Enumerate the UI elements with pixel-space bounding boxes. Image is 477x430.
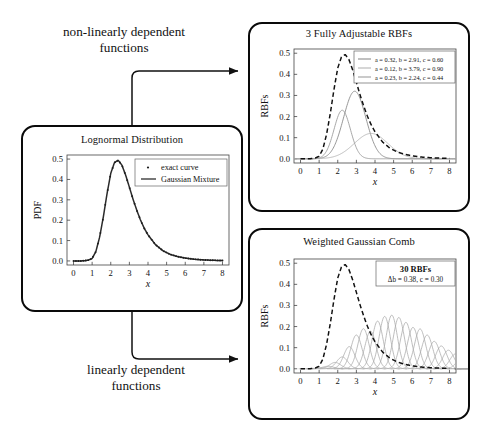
- legend-label-rbf-2: a = 0.12, b = 3.79, c = 0.90: [375, 65, 443, 72]
- series-exact-curve-marker: [109, 176, 111, 178]
- series-exact-curve-marker: [190, 258, 192, 260]
- series-exact-curve-marker: [219, 260, 221, 262]
- x-tick-label: 5: [164, 268, 168, 278]
- x-tick-label: 7: [202, 268, 207, 278]
- series-exact-curve-marker: [112, 167, 114, 169]
- series-exact-curve-marker: [153, 242, 155, 244]
- series-exact-curve-marker: [192, 258, 194, 260]
- series-exact-curve-marker: [151, 239, 153, 241]
- series-exact-curve-marker: [163, 250, 165, 252]
- x-tick-label: 4: [146, 268, 151, 278]
- x-tick-label: 3: [354, 376, 358, 386]
- series-exact-curve-marker: [202, 259, 204, 261]
- series-exact-curve-marker: [117, 160, 119, 162]
- series-exact-curve-marker: [185, 257, 187, 259]
- legend-label-exact-curve: exact curve: [161, 163, 199, 172]
- y-tick-label: 0.0: [279, 154, 290, 164]
- panel-title-left: Lognormal Distribution: [23, 134, 241, 145]
- x-tick-label: 1: [317, 376, 321, 386]
- series-exact-curve-marker: [124, 172, 126, 174]
- flow-label-nonlinear: non-linearly dependent functions: [18, 24, 230, 55]
- x-tick-label: 5: [391, 166, 395, 176]
- series-exact-curve-marker: [175, 255, 177, 257]
- legend-marker-dot-icon: [147, 166, 149, 168]
- series-exact-curve-marker: [102, 219, 104, 221]
- x-tick-label: 3: [127, 268, 131, 278]
- y-tick-label: 0.5: [52, 154, 63, 164]
- series-exact-curve-marker: [156, 245, 158, 247]
- y-axis-label: RBFs: [259, 94, 270, 117]
- flow-label-linear: linearly dependent functions: [30, 362, 242, 393]
- series-exact-curve-marker: [90, 258, 92, 260]
- x-tick-label: 1: [90, 268, 94, 278]
- legend-label-gaussian-mixture: Gaussian Mixture: [161, 175, 220, 184]
- comb-rbf-curve: [419, 346, 456, 369]
- series-exact-curve-marker: [95, 251, 97, 253]
- legend-label-rbf-3: a = 0.23, b = 2.24, c = 0.44: [375, 74, 444, 81]
- y-tick-label: 0.1: [279, 343, 290, 353]
- series-exact-curve-marker: [204, 259, 206, 261]
- series-exact-curve-marker: [158, 247, 160, 249]
- x-tick-label: 2: [336, 166, 340, 176]
- figure-canvas: non-linearly dependent functions linearl…: [0, 0, 477, 430]
- series-exact-curve-marker: [148, 236, 150, 238]
- panel-title-top-right: 3 Fully Adjustable RBFs: [250, 28, 468, 39]
- series-exact-curve-marker: [207, 259, 209, 261]
- x-tick-label: 8: [220, 268, 224, 278]
- annotation-rbf-params: Δb = 0.38, c = 0.30: [388, 276, 444, 284]
- series-exact-curve-marker: [104, 204, 106, 206]
- series-exact-curve-marker: [195, 258, 197, 260]
- series-exact-curve-marker: [173, 254, 175, 256]
- series-exact-curve-marker: [126, 179, 128, 181]
- x-axis-label: x: [372, 176, 378, 187]
- x-tick-label: 4: [373, 166, 378, 176]
- y-tick-label: 0.2: [52, 215, 63, 225]
- series-exact-curve-marker: [114, 161, 116, 163]
- x-tick-label: 2: [336, 376, 340, 386]
- series-exact-curve-marker: [180, 256, 182, 258]
- series-exact-curve-marker: [200, 259, 202, 261]
- series-exact-curve-marker: [222, 260, 224, 262]
- series-exact-curve-marker: [82, 260, 84, 262]
- panel-lognormal-distribution: Lognormal Distribution 0123456780.00.10.…: [21, 125, 243, 312]
- x-tick-label: 0: [298, 166, 302, 176]
- x-tick-label: 6: [410, 166, 415, 176]
- panel-title-bottom-right: Weighted Gaussian Comb: [250, 236, 468, 247]
- y-tick-label: 0.3: [279, 300, 290, 310]
- x-tick-label: 3: [354, 166, 358, 176]
- series-exact-curve-marker: [92, 256, 94, 258]
- chart-gaussian-comb: 0123456780.00.10.20.30.40.5xRBFs30 RBFsΔ…: [250, 247, 468, 419]
- y-tick-label: 0.5: [279, 48, 290, 58]
- y-tick-label: 0.0: [52, 256, 63, 266]
- x-tick-label: 2: [109, 268, 113, 278]
- series-exact-curve-marker: [197, 259, 199, 261]
- x-tick-label: 5: [391, 376, 395, 386]
- series-exact-curve-marker: [160, 249, 162, 251]
- series-exact-curve-marker: [209, 259, 211, 261]
- series-exact-curve-marker: [85, 260, 87, 262]
- series-exact-curve-marker: [121, 165, 123, 167]
- series-exact-curve-marker: [75, 260, 77, 262]
- series-exact-curve-marker: [99, 232, 101, 234]
- y-tick-label: 0.5: [279, 258, 290, 268]
- y-tick-label: 0.2: [279, 112, 290, 122]
- y-tick-label: 0.2: [279, 322, 290, 332]
- series-exact-curve-marker: [131, 195, 133, 197]
- y-tick-label: 0.0: [279, 364, 290, 374]
- series-exact-curve-marker: [97, 243, 99, 245]
- series-exact-curve-marker: [80, 260, 82, 262]
- chart-three-rbfs: 0123456780.00.10.20.30.40.5xRBFsa = 0.32…: [250, 39, 468, 209]
- annotation-rbf-count: 30 RBFs: [400, 264, 432, 274]
- x-axis-label: x: [372, 386, 378, 397]
- x-tick-label: 0: [298, 376, 302, 386]
- y-tick-label: 0.1: [52, 236, 63, 246]
- x-tick-label: 6: [410, 376, 415, 386]
- x-tick-label: 6: [183, 268, 188, 278]
- x-tick-label: 7: [429, 166, 434, 176]
- series-exact-curve-marker: [136, 210, 138, 212]
- comb-rbf-curve: [362, 316, 407, 368]
- y-tick-label: 0.3: [52, 195, 63, 205]
- y-tick-label: 0.1: [279, 133, 290, 143]
- series-exact-curve-marker: [170, 254, 172, 256]
- y-axis-label: PDF: [32, 200, 43, 219]
